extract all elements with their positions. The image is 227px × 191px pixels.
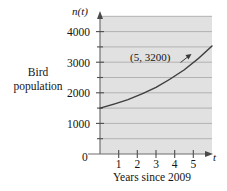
x-axis-caption: Years since 2009 — [92, 171, 212, 184]
x-axis-tick-labels: 1 2 3 4 5 — [0, 0, 227, 191]
x-tick-label-1: 1 — [112, 159, 126, 171]
x-tick-label-4: 4 — [168, 159, 182, 171]
x-tick-label-2: 2 — [130, 159, 144, 171]
x-tick-label-5: 5 — [186, 159, 200, 171]
data-point-annotation: (5, 3200) — [130, 52, 170, 63]
x-tick-label-3: 3 — [149, 159, 163, 171]
bird-population-graph-figure: n(t) t Bird population 4000 3000 2000 10… — [0, 0, 227, 191]
